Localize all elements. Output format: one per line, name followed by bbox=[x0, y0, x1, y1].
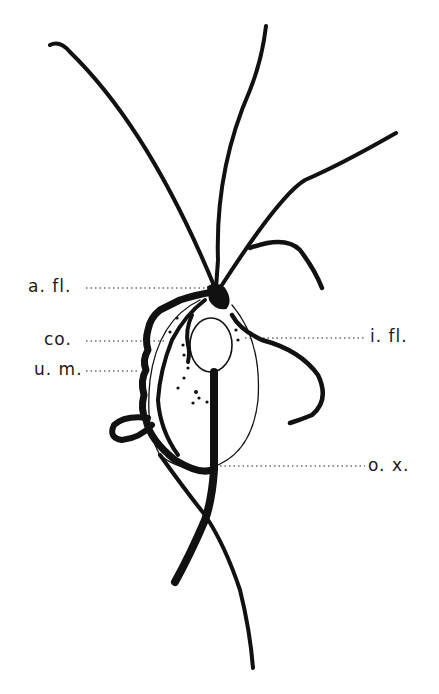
label-anterior-flagella: a. fl. bbox=[28, 278, 71, 295]
anterior-flagellum-4 bbox=[250, 242, 322, 288]
axostyle-tail bbox=[160, 455, 253, 668]
recurrent-flagellum bbox=[232, 315, 323, 423]
label-costa: co. bbox=[44, 331, 72, 348]
anterior-flagellum-2 bbox=[216, 26, 266, 288]
blepharoplast bbox=[208, 285, 229, 309]
recurrent-loop bbox=[112, 417, 152, 440]
nucleus bbox=[190, 318, 232, 372]
anterior-flagellum-1 bbox=[50, 44, 215, 288]
label-inner-flagellum: i. fl. bbox=[370, 328, 408, 345]
protozoan-diagram: a. fl. co. u. m. i. fl. o. x. bbox=[0, 0, 439, 694]
label-undulating-membrane: u. m. bbox=[34, 361, 83, 378]
label-axostyle: o. x. bbox=[368, 457, 409, 474]
